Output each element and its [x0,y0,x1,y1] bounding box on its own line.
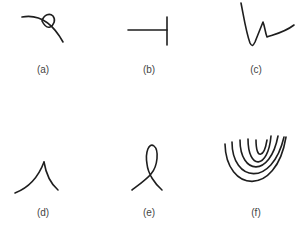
panel-label-c: (c) [250,64,262,75]
figure-canvas [0,0,303,228]
panel-label-f: (f) [251,207,260,218]
panel-label-e: (e) [143,207,155,218]
panel-a-drawing [22,14,63,42]
panel-f-drawing [225,136,286,181]
panel-label-a: (a) [37,64,49,75]
panel-c-drawing [241,3,294,46]
panel-label-d: (d) [37,207,49,218]
panel-d-drawing [15,162,58,193]
panel-label-b: (b) [143,64,155,75]
panel-e-drawing [132,145,162,190]
panel-b-drawing [128,17,167,45]
